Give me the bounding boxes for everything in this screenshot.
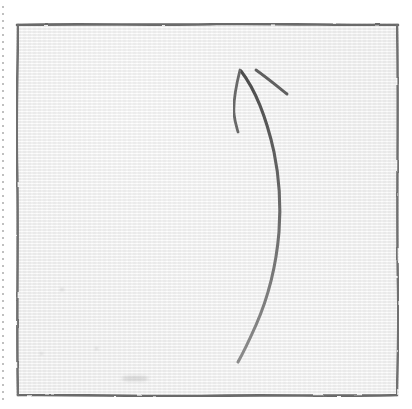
grid-border-bottom [18, 395, 397, 396]
page-canvas [0, 0, 412, 409]
smudge-mid-left [60, 288, 64, 291]
grid-border-left [17, 25, 18, 395]
grid-border-right [397, 25, 398, 395]
left-margin-dotted-artifact [2, 6, 4, 404]
grid-guides [16, 23, 399, 397]
smudge-bottom-center [122, 376, 148, 381]
grid-border-top [17, 24, 398, 25]
smudge-lower-center [95, 347, 98, 350]
practice-grid-box [16, 23, 399, 397]
smudge-lower-left [40, 352, 43, 355]
